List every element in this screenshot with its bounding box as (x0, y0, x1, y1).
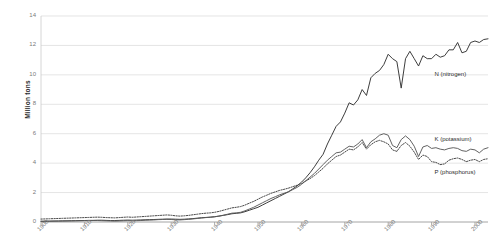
chart-plot-area (0, 0, 502, 252)
gridlines (41, 16, 488, 193)
y-tick-label: 2 (14, 189, 36, 195)
axis-lines (41, 16, 488, 222)
y-tick-label: 12 (14, 41, 36, 47)
chart-container: Million tons 02468101214 190019101920193… (0, 0, 502, 252)
series-label: N (nitrogen) (435, 71, 467, 77)
series-label: K (potassium) (435, 136, 472, 142)
y-tick-label: 8 (14, 100, 36, 106)
series-line (41, 134, 488, 222)
series-lines (41, 39, 488, 222)
y-tick-label: 14 (14, 12, 36, 18)
y-tick-label: 4 (14, 159, 36, 165)
y-tick-label: 6 (14, 130, 36, 136)
series-line (41, 39, 488, 221)
y-tick-label: 10 (14, 71, 36, 77)
series-label: P (phosphorus) (435, 169, 476, 175)
y-tick-label: 0 (14, 218, 36, 224)
